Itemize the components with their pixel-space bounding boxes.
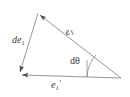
- label-e1prime: e1′: [51, 79, 61, 91]
- edge-e1prime-base: [22, 75, 121, 78]
- dtheta-arc: [87, 55, 96, 77]
- vector-triangle-figure: de1 e1 dθ e1′: [0, 0, 130, 97]
- label-de1: de1: [12, 35, 25, 46]
- diagram-canvas: [0, 0, 130, 97]
- label-de1-subscript: 1: [21, 39, 24, 46]
- label-dtheta: dθ: [70, 56, 80, 66]
- label-e1prime-prime: ′: [59, 78, 61, 88]
- edge-e1-hypotenuse: [40, 15, 121, 78]
- label-dtheta-base: θ: [75, 55, 80, 66]
